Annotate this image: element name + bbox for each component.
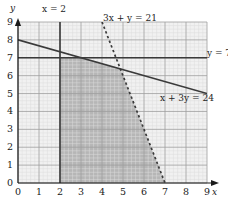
x-tick-9: 9	[204, 187, 210, 197]
x-tick-8: 8	[183, 187, 189, 197]
x-tick-1: 1	[36, 187, 42, 197]
x-tick-5: 5	[120, 187, 126, 197]
annotation-x-equals-2: x = 2	[42, 5, 66, 14]
y-axis-title: y	[10, 4, 15, 13]
y-tick-2: 2	[7, 142, 13, 152]
x-tick-3: 3	[78, 187, 84, 197]
y-tick-3: 3	[7, 124, 13, 134]
y-tick-1: 1	[7, 160, 13, 170]
y-tick-6: 6	[7, 71, 13, 81]
x-tick-4: 4	[99, 187, 105, 197]
x-tick-2: 2	[57, 187, 63, 197]
y-tick-9: 9	[7, 17, 13, 27]
y-tick-7: 7	[7, 53, 13, 63]
x-tick-7: 7	[162, 187, 168, 197]
y-tick-8: 8	[7, 35, 13, 45]
x-axis-title: x	[212, 188, 217, 197]
x-tick-0: 0	[15, 187, 21, 197]
x-tick-6: 6	[141, 187, 147, 197]
linear-programming-graph: y x 0123456789 0123456789 x = 2 3x + y =…	[0, 0, 228, 203]
x-axis-arrow	[211, 180, 219, 186]
annotation-x-plus-3y: x + 3y = 24	[160, 94, 214, 103]
y-tick-0: 0	[7, 178, 13, 188]
annotation-y-equals-7: y = 7	[207, 49, 228, 58]
y-tick-5: 5	[7, 89, 13, 99]
y-tick-4: 4	[7, 106, 13, 116]
annotation-3x-plus-y: 3x + y = 21	[103, 14, 157, 23]
